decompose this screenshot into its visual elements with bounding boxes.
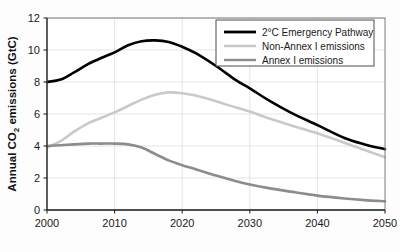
x-tick-label: 2000 — [35, 217, 59, 229]
y-tick-label: 0 — [34, 204, 40, 216]
y-axis-title-suffix: emissions (GtC) — [6, 36, 18, 128]
legend-label: Annex I emissions — [262, 55, 343, 66]
legend-label: 2°C Emergency Pathway — [262, 27, 373, 38]
emissions-chart: 024681012200020102020203020402050Annual … — [0, 0, 400, 252]
x-tick-label: 2050 — [373, 217, 397, 229]
y-tick-label: 8 — [34, 76, 40, 88]
x-tick-label: 2020 — [170, 217, 194, 229]
y-tick-label: 2 — [34, 172, 40, 184]
x-tick-label: 2030 — [238, 217, 262, 229]
chart-canvas: 024681012200020102020203020402050Annual … — [0, 0, 400, 252]
y-tick-label: 10 — [28, 44, 40, 56]
x-tick-label: 2040 — [305, 217, 329, 229]
y-axis-title: Annual CO2 emissions (GtC) — [6, 36, 21, 191]
y-tick-label: 12 — [28, 12, 40, 24]
x-tick-label: 2010 — [102, 217, 126, 229]
y-axis-title-text: Annual CO2 emissions (GtC) — [6, 36, 21, 191]
y-tick-label: 4 — [34, 140, 40, 152]
chart-legend: 2°C Emergency PathwayNon-Annex I emissio… — [216, 20, 374, 66]
legend-label: Non-Annex I emissions — [262, 41, 365, 52]
y-tick-label: 6 — [34, 108, 40, 120]
y-axis-title-prefix: Annual CO — [6, 132, 18, 191]
